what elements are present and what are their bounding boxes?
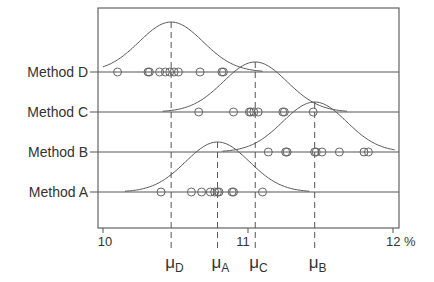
method-d-label: Method D (27, 64, 88, 80)
method-labels: Method DMethod CMethod BMethod A (27, 64, 88, 200)
x-tick-label: 12 % (386, 234, 416, 249)
mean-labels: μDμCμBμA (165, 253, 326, 275)
mean-label-b: μB (309, 253, 327, 275)
plot-frame (98, 8, 399, 228)
mean-label-a: μA (212, 253, 230, 275)
x-tick-label: 11 (236, 234, 250, 249)
method-b-label: Method B (28, 144, 88, 160)
mean-label-d: μD (165, 253, 184, 275)
data-points (114, 68, 373, 196)
method-d-density-curve (103, 22, 263, 71)
plot-border (98, 8, 399, 228)
density-curves (103, 22, 395, 191)
method-row-lines (90, 72, 399, 192)
mean-reference-lines (171, 22, 315, 252)
method-a-label: Method A (29, 184, 89, 200)
x-axis: 101112 % (98, 228, 416, 249)
method-c-label: Method C (27, 104, 88, 120)
dot-plot-chart: Method DMethod CMethod BMethod A 101112 … (0, 0, 434, 282)
x-tick-label: 10 (98, 234, 112, 249)
mean-label-c: μC (249, 253, 268, 275)
